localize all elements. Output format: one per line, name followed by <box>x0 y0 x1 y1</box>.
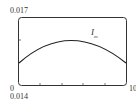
chart-canvas <box>0 0 136 103</box>
series-label: Im <box>91 28 98 39</box>
y-axis-top-label: 0.017 <box>10 7 28 15</box>
x-ticks <box>40 83 105 85</box>
x-axis-right-label: 10 <box>129 85 136 93</box>
y-axis-bottom-label: 0.014 <box>10 93 28 101</box>
series-curve-im <box>19 41 126 64</box>
